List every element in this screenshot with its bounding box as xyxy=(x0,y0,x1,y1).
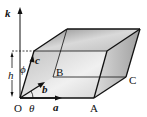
label-O: O xyxy=(14,102,22,114)
label-b: b xyxy=(42,83,48,95)
label-a: a xyxy=(53,101,59,113)
label-phi: ϕ xyxy=(20,63,26,75)
k-axis-arrowhead-icon xyxy=(18,7,23,14)
label-c: c xyxy=(35,54,40,66)
parallelepiped-diagram: k c b a h ϕ θ O A B C xyxy=(0,0,147,117)
label-theta: θ xyxy=(29,102,35,114)
h-arrow-up-icon xyxy=(11,52,14,57)
label-A: A xyxy=(90,102,98,114)
label-B: B xyxy=(56,66,63,78)
label-h: h xyxy=(8,69,14,81)
h-arrow-down-icon xyxy=(11,92,14,97)
label-k: k xyxy=(5,7,11,19)
label-C: C xyxy=(129,74,136,86)
